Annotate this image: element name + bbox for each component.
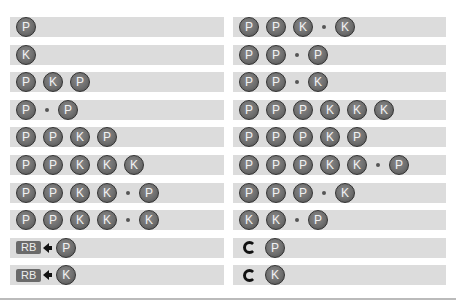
left-arrow-icon (43, 243, 54, 253)
punch-button-icon: P (70, 72, 90, 92)
punch-button-icon: P (308, 45, 328, 65)
punch-button-icon: P (58, 100, 78, 120)
punch-button-icon: P (266, 45, 286, 65)
kick-button-icon: K (139, 210, 159, 230)
punch-button-icon: P (43, 183, 63, 203)
rb-button-icon: RB (16, 241, 41, 254)
punch-button-icon: P (389, 155, 409, 175)
kick-button-icon: K (335, 183, 355, 203)
kick-button-icon: K (266, 210, 286, 230)
rb-button-icon: RB (16, 269, 41, 282)
kick-button-icon: K (335, 17, 355, 37)
combo-row: RBK (10, 265, 224, 285)
punch-button-icon: P (266, 100, 286, 120)
kick-button-icon: K (97, 183, 117, 203)
kick-button-icon: K (239, 210, 259, 230)
rotate-icon (243, 269, 256, 282)
punch-button-icon: P (266, 127, 286, 147)
punch-button-icon: P (308, 210, 328, 230)
kick-button-icon: K (56, 265, 76, 285)
punch-button-icon: P (43, 210, 63, 230)
kick-button-icon: K (97, 155, 117, 175)
punch-button-icon: P (16, 17, 36, 37)
separator-dot-icon (376, 163, 380, 167)
kick-button-icon: K (70, 183, 90, 203)
punch-button-icon: P (16, 72, 36, 92)
punch-button-icon: P (239, 127, 259, 147)
separator-dot-icon (322, 25, 326, 29)
kick-button-icon: K (347, 155, 367, 175)
punch-button-icon: P (43, 155, 63, 175)
kick-button-icon: K (43, 72, 63, 92)
combo-row: PPKKK (10, 155, 224, 175)
combo-row: PPKKK (10, 210, 224, 230)
kick-button-icon: K (70, 155, 90, 175)
punch-button-icon: P (239, 183, 259, 203)
kick-button-icon: K (70, 210, 90, 230)
kick-button-icon: K (16, 45, 36, 65)
punch-button-icon: P (293, 127, 313, 147)
combo-row: KKP (233, 210, 446, 230)
kick-button-icon: K (97, 210, 117, 230)
combo-row: PPPKP (233, 127, 446, 147)
separator-dot-icon (45, 108, 49, 112)
punch-button-icon: P (266, 183, 286, 203)
punch-button-icon: P (347, 127, 367, 147)
punch-button-icon: P (16, 183, 36, 203)
punch-button-icon: P (56, 238, 76, 258)
combo-row: PPK (233, 72, 446, 92)
punch-button-icon: P (293, 183, 313, 203)
punch-button-icon: P (293, 100, 313, 120)
punch-button-icon: P (97, 127, 117, 147)
combo-row: PPKKP (10, 183, 224, 203)
punch-button-icon: P (16, 127, 36, 147)
separator-dot-icon (295, 53, 299, 57)
combo-row: PPKK (233, 17, 446, 37)
punch-button-icon: P (139, 183, 159, 203)
combo-row: PKP (10, 72, 224, 92)
punch-button-icon: P (266, 72, 286, 92)
separator-dot-icon (126, 218, 130, 222)
punch-button-icon: P (265, 238, 285, 258)
punch-button-icon: P (239, 155, 259, 175)
separator-dot-icon (295, 80, 299, 84)
kick-button-icon: K (124, 155, 144, 175)
combo-row: PPPK (233, 183, 446, 203)
combo-row: PPPKKK (233, 100, 446, 120)
combo-row: K (233, 265, 446, 285)
combo-row: PP (10, 100, 224, 120)
right-command-list: PPKKPPPPPKPPPKKKPPPKPPPPKKPPPPKKKPPK (233, 17, 446, 293)
kick-button-icon: K (320, 155, 340, 175)
combo-row: PPKP (10, 127, 224, 147)
punch-button-icon: P (43, 127, 63, 147)
combo-row: PPP (233, 45, 446, 65)
punch-button-icon: P (266, 155, 286, 175)
separator-dot-icon (322, 191, 326, 195)
kick-button-icon: K (265, 265, 285, 285)
combo-row: RBP (10, 238, 224, 258)
punch-button-icon: P (239, 45, 259, 65)
punch-button-icon: P (293, 155, 313, 175)
combo-row: P (233, 238, 446, 258)
punch-button-icon: P (239, 100, 259, 120)
kick-button-icon: K (70, 127, 90, 147)
combo-row: PPPKKP (233, 155, 446, 175)
punch-button-icon: P (266, 17, 286, 37)
punch-button-icon: P (239, 17, 259, 37)
left-command-list: PKPKPPPPPKPPPKKKPPKKPPPKKKRBPRBK (10, 17, 224, 293)
kick-button-icon: K (293, 17, 313, 37)
punch-button-icon: P (16, 100, 36, 120)
separator-dot-icon (295, 218, 299, 222)
left-arrow-icon (43, 270, 54, 280)
rotate-icon (243, 241, 256, 254)
kick-button-icon: K (308, 72, 328, 92)
combo-row: P (10, 17, 224, 37)
kick-button-icon: K (347, 100, 367, 120)
kick-button-icon: K (374, 100, 394, 120)
punch-button-icon: P (16, 210, 36, 230)
punch-button-icon: P (16, 155, 36, 175)
kick-button-icon: K (320, 127, 340, 147)
separator-dot-icon (126, 191, 130, 195)
kick-button-icon: K (320, 100, 340, 120)
punch-button-icon: P (239, 72, 259, 92)
